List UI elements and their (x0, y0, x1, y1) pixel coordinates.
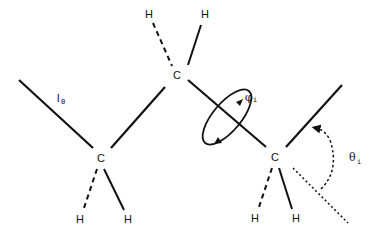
bond-extension-dotted (293, 168, 348, 223)
hydrogen-label-right-1: H (251, 212, 259, 224)
hydrogen-label-top-2: H (201, 8, 209, 20)
hydrogen-label-left-2: H (124, 213, 132, 225)
torsion-angle-label: φ i (245, 91, 257, 104)
hydrogen-bond-solid-top (188, 25, 201, 65)
bond-angle-label: θ i (349, 151, 361, 166)
polymer-chain-diagram: C C C H H H H H H l 0 φ i θ i (0, 0, 375, 235)
hydrogen-bond-dashed-left (84, 169, 97, 208)
hydrogen-label-top-1: H (145, 8, 153, 20)
torsion-angle-symbol: φ (245, 91, 253, 104)
torsion-angle-subscript: i (253, 96, 257, 104)
hydrogen-bond-dashed-right (259, 168, 272, 207)
hydrogen-bond-dashed-top (153, 23, 172, 66)
hydrogen-bond-solid-right (279, 168, 292, 209)
carbon-left-label: C (97, 152, 105, 164)
bond-length-subscript: 0 (61, 98, 65, 106)
hydrogen-label-right-2: H (292, 212, 300, 224)
backbone-bond-1 (19, 80, 93, 148)
bond-length-symbol: l (57, 92, 59, 104)
hydrogen-bond-solid-left (104, 169, 124, 210)
carbon-top-label: C (173, 69, 181, 81)
diagram-svg: C C C H H H H H H l 0 φ i θ i (0, 0, 375, 235)
bond-angle-symbol: θ (349, 151, 356, 164)
carbon-right-label: C (271, 151, 279, 163)
torsion-arrow-top (236, 99, 243, 106)
bond-length-label: l 0 (57, 92, 65, 106)
hydrogen-label-left-1: H (76, 213, 84, 225)
backbone-bond-4 (286, 85, 342, 147)
bond-angle-subscript: i (357, 158, 361, 166)
backbone-bond-2 (111, 87, 165, 148)
bond-angle-arc (316, 128, 333, 189)
